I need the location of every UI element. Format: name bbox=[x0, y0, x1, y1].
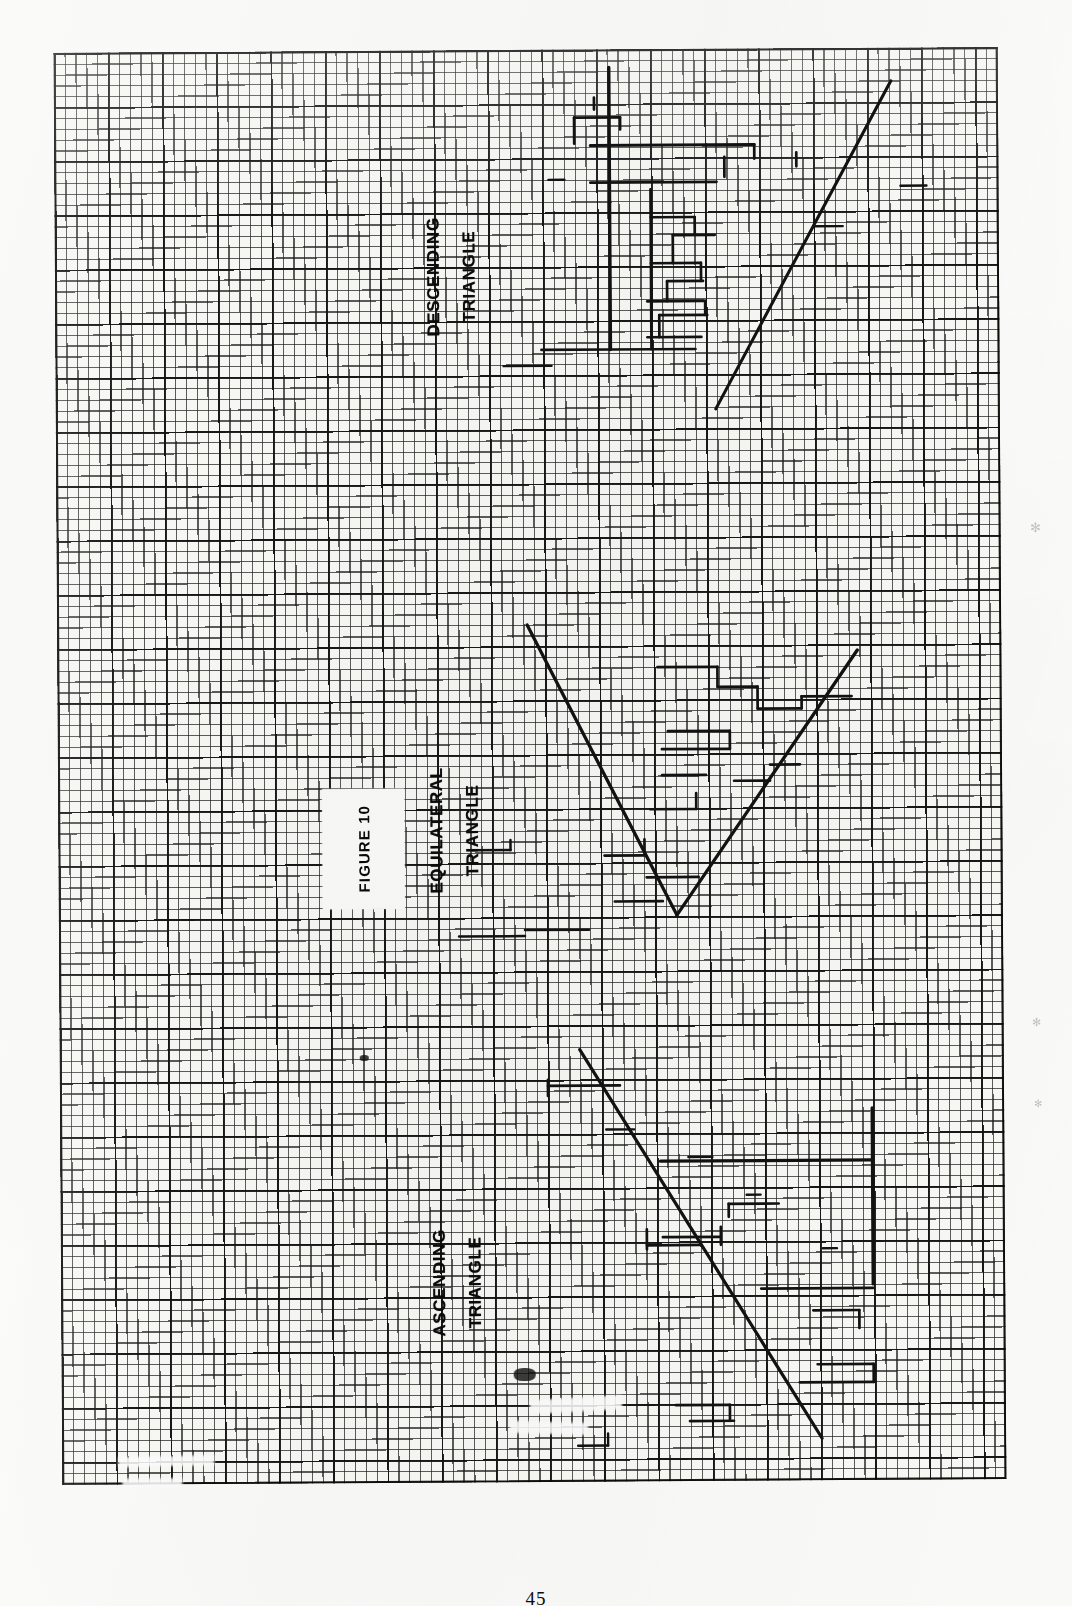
figure-caption-box: FIGURE 10 bbox=[322, 789, 405, 909]
pattern-label-ascending: ASCENDING TRIANGLE bbox=[412, 1148, 503, 1449]
figure-caption-text: FIGURE 10 bbox=[355, 805, 373, 893]
descending-resistance-line bbox=[590, 145, 754, 146]
equilateral-rising-trendline bbox=[675, 650, 859, 915]
margin-smudge: ✻ bbox=[1030, 520, 1041, 536]
equilateral-price-steps bbox=[603, 666, 852, 902]
descending-price-steps bbox=[540, 96, 798, 350]
ascending-price-steps bbox=[548, 1078, 874, 1422]
panel-equilateral-triangle bbox=[457, 623, 859, 936]
pattern-label-ascending-line2: TRIANGLE bbox=[465, 1236, 485, 1328]
panel-descending-triangle bbox=[502, 66, 928, 411]
ascending-resistance-line bbox=[660, 1160, 872, 1161]
margin-smudge: ✻ bbox=[1032, 1016, 1041, 1029]
chart-ink-layer bbox=[54, 47, 1007, 1485]
pattern-label-descending-line2: TRIANGLE bbox=[459, 230, 479, 322]
equilateral-falling-trendline bbox=[527, 624, 677, 916]
graph-paper-sheet: DESCENDING TRIANGLE EQUILATERAL TRIANGLE… bbox=[54, 47, 1007, 1485]
pattern-label-descending-line1: DESCENDING bbox=[423, 217, 443, 336]
pattern-label-equilateral-line1: EQUILATERAL bbox=[427, 767, 447, 893]
descending-support-line bbox=[609, 68, 611, 350]
margin-smudge: ✻ bbox=[1034, 1098, 1042, 1109]
pattern-label-descending: DESCENDING TRIANGLE bbox=[406, 142, 497, 443]
pattern-label-equilateral: EQUILATERAL TRIANGLE bbox=[410, 696, 501, 997]
page-number: 45 bbox=[0, 1588, 1072, 1606]
descending-breakout-trendline bbox=[714, 81, 893, 409]
pattern-label-ascending-line1: ASCENDING bbox=[430, 1229, 450, 1337]
scanned-page: DESCENDING TRIANGLE EQUILATERAL TRIANGLE… bbox=[0, 0, 1072, 1606]
ascending-axis-line bbox=[872, 1108, 873, 1284]
panel-ascending-triangle bbox=[548, 1048, 874, 1446]
pattern-label-equilateral-line2: TRIANGLE bbox=[463, 784, 483, 876]
